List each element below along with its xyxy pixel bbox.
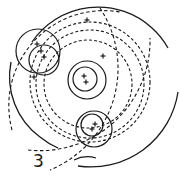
cross-mark-icon: [82, 74, 87, 79]
dashed-arc-c: [50, 8, 118, 170]
cross-mark-icon: [32, 75, 37, 80]
cross-mark-icon: [39, 49, 44, 54]
center-small-circle: [73, 67, 97, 91]
lower-small-circle: [81, 114, 103, 136]
cross-mark-icon: [42, 55, 47, 60]
dashed-arc-b: [28, 38, 150, 151]
dashed-orbit-middle: [36, 30, 144, 138]
upper-left-small-circle: [29, 45, 59, 75]
dashed-orbits: [30, 22, 150, 142]
cross-mark-icon: [93, 122, 98, 127]
cross-mark-icon: [84, 80, 89, 85]
orbital-diagram-svg: [0, 0, 180, 181]
bottom-short-arc: [74, 157, 96, 160]
figure-label: 3: [33, 153, 44, 170]
cross-mark-icon: [101, 54, 106, 59]
